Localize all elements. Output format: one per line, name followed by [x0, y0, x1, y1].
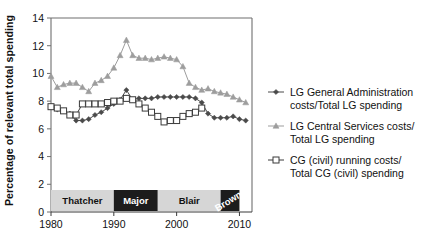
data-point-square — [111, 98, 117, 104]
y-tick-label: 14 — [32, 12, 44, 24]
y-tick-label: 6 — [38, 123, 44, 135]
data-point-square — [117, 98, 123, 104]
data-point-square — [61, 108, 67, 114]
data-point-square — [136, 101, 142, 107]
data-point-square — [161, 119, 167, 125]
legend-label-line2: Total LG spending — [290, 133, 375, 145]
legend-label-line1: LG Central Services costs/ — [290, 120, 414, 132]
y-tick-label: 8 — [38, 95, 44, 107]
data-point-square — [98, 101, 104, 107]
legend-label-line1: CG (civil) running costs/ — [290, 154, 402, 166]
data-point-square — [86, 101, 92, 107]
x-tick-label: 1990 — [102, 218, 126, 230]
x-tick-label: 2000 — [165, 218, 189, 230]
data-point-square — [123, 95, 129, 101]
era-band-label: Thatcher — [62, 195, 102, 206]
data-point-square — [273, 157, 279, 163]
data-point-square — [54, 105, 60, 111]
data-point-square — [130, 97, 136, 103]
legend-label-line2: costs/Total LG spending — [290, 99, 402, 111]
era-band-group: ThatcherMajorBlairBrown — [51, 188, 244, 213]
data-point-square — [92, 101, 98, 107]
data-point-square — [142, 105, 148, 111]
legend-label-line2: Total CG (civil) spending — [290, 167, 404, 179]
data-point-square — [155, 113, 161, 119]
line-chart-canvas: Percentage of relevant total spending 02… — [0, 0, 447, 244]
data-point-square — [149, 109, 155, 115]
y-tick-label: 2 — [38, 178, 44, 190]
data-point-square — [48, 104, 54, 110]
x-tick-label: 1980 — [39, 218, 63, 230]
data-point-square — [67, 112, 73, 118]
era-band-label: Blair — [179, 195, 200, 206]
x-tick-label: 2010 — [228, 218, 252, 230]
data-point-square — [199, 105, 205, 111]
data-point-square — [73, 112, 79, 118]
data-point-square — [167, 118, 173, 124]
legend-label-line1: LG General Administration — [290, 86, 413, 98]
y-tick-label: 4 — [38, 150, 44, 162]
data-point-square — [79, 101, 85, 107]
data-point-square — [174, 118, 180, 124]
chart-figure: Percentage of relevant total spending 02… — [0, 0, 447, 244]
data-point-square — [186, 111, 192, 117]
era-band-label: Major — [123, 195, 149, 206]
y-tick-label: 12 — [32, 40, 44, 52]
y-tick-label: 0 — [38, 206, 44, 218]
data-point-square — [105, 100, 111, 106]
data-point-square — [192, 109, 198, 115]
data-point-square — [180, 113, 186, 119]
y-tick-label: 10 — [32, 67, 44, 79]
y-axis-title: Percentage of relevant total spending — [3, 15, 15, 206]
